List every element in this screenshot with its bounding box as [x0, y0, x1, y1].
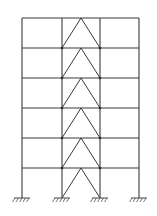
- joint-dot: [61, 137, 64, 140]
- ground-hatch: [16, 198, 19, 202]
- ground-hatch: [101, 198, 104, 202]
- brace-right-storey-4: [81, 108, 100, 138]
- fixed-support-icon: [53, 198, 71, 202]
- brace-left-storey-6: [62, 168, 81, 198]
- brace-left-storey-2: [62, 48, 81, 78]
- structural-frame-diagram: Six-storey three-bay frame with chevron …: [0, 0, 157, 216]
- ground-hatch: [56, 198, 59, 202]
- frame-drawing: [0, 0, 157, 216]
- ground-hatch: [98, 198, 101, 202]
- ground-hatch: [91, 198, 94, 202]
- ground-hatch: [94, 198, 97, 202]
- joint-dot: [61, 107, 64, 110]
- joint-dot: [99, 77, 102, 80]
- fixed-supports: [13, 198, 148, 202]
- ground-hatch: [130, 198, 133, 202]
- joint-dot: [99, 107, 102, 110]
- ground-hatch: [67, 198, 70, 202]
- brace-left-storey-5: [62, 138, 81, 168]
- brace-left-storey-3: [62, 78, 81, 108]
- ground-hatch: [144, 198, 147, 202]
- ground-hatch: [20, 198, 23, 202]
- ground-hatch: [137, 198, 140, 202]
- ground-hatch: [140, 198, 143, 202]
- joint-dot: [61, 77, 64, 80]
- joint-dot: [61, 47, 64, 50]
- beams: [22, 18, 139, 168]
- brace-right-storey-6: [81, 168, 100, 198]
- brace-right-storey-5: [81, 138, 100, 168]
- ground-hatch: [27, 198, 30, 202]
- joint-dot: [99, 137, 102, 140]
- brace-left-storey-4: [62, 108, 81, 138]
- ground-hatch: [133, 198, 136, 202]
- fixed-support-icon: [13, 198, 31, 202]
- brace-left-storey-1: [62, 18, 81, 48]
- ground-hatch: [13, 198, 16, 202]
- brace-right-storey-1: [81, 18, 100, 48]
- ground-hatch: [63, 198, 66, 202]
- ground-hatch: [105, 198, 108, 202]
- fixed-support-icon: [91, 198, 109, 202]
- ground-hatch: [23, 198, 26, 202]
- brace-right-storey-2: [81, 48, 100, 78]
- fixed-support-icon: [130, 198, 148, 202]
- joint-dot: [99, 47, 102, 50]
- joint-dot: [99, 167, 102, 170]
- ground-hatch: [53, 198, 56, 202]
- joint-dot: [61, 167, 64, 170]
- ground-hatch: [60, 198, 63, 202]
- brace-right-storey-3: [81, 78, 100, 108]
